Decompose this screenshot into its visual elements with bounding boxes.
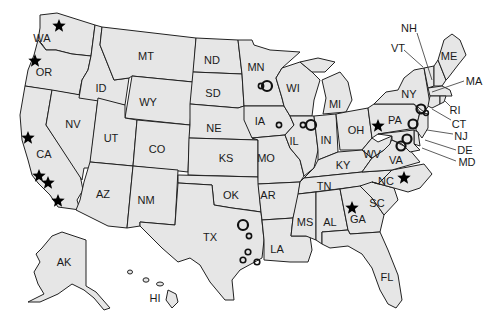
state-label-nc: NC (378, 175, 394, 187)
state-label-ma: MA (466, 75, 483, 87)
state-label-ut: UT (104, 132, 119, 144)
state-label-mo: MO (257, 152, 275, 164)
callout-line-vt (404, 50, 423, 67)
callout-line-de (425, 140, 456, 150)
state-label-nv: NV (65, 118, 81, 130)
state-shape-ak (28, 232, 110, 310)
state-label-ia: IA (255, 115, 266, 127)
state-label-wy: WY (139, 96, 157, 108)
state-label-id: ID (96, 82, 107, 94)
state-label-az: AZ (96, 188, 110, 200)
state-label-fl: FL (381, 271, 394, 283)
state-label-la: LA (270, 243, 284, 255)
state-label-il: IL (289, 135, 298, 147)
us-map: WAORCANVIDMTWYUTCOAZNMNDSDNEKSOKTXMNIAMO… (0, 0, 497, 324)
state-label-nj: NJ (454, 130, 467, 142)
state-label-ms: MS (297, 216, 314, 228)
callout-line-ct (432, 109, 451, 120)
state-label-tn: TN (317, 180, 332, 192)
state-label-mt: MT (138, 50, 154, 62)
state-label-oh: OH (348, 124, 365, 136)
state-label-wi: WI (286, 82, 299, 94)
state-label-ak: AK (57, 256, 72, 268)
state-label-md: MD (458, 156, 475, 168)
state-label-nm: NM (137, 194, 154, 206)
state-shape-ri (440, 96, 446, 104)
state-label-de: DE (457, 144, 472, 156)
state-label-co: CO (149, 143, 166, 155)
state-label-wa: WA (33, 32, 51, 44)
state-label-pa: PA (388, 114, 403, 126)
state-label-al: AL (323, 216, 336, 228)
callout-line-md (422, 148, 456, 161)
state-label-or: OR (36, 66, 53, 78)
state-label-hi: HI (150, 292, 161, 304)
state-label-ri: RI (450, 104, 461, 116)
state-label-sc: SC (369, 197, 384, 209)
state-label-nh: NH (401, 22, 417, 34)
state-label-me: ME (441, 50, 458, 62)
state-label-nd: ND (204, 54, 220, 66)
state-label-sd: SD (205, 87, 220, 99)
state-label-mi: MI (329, 98, 341, 110)
state-label-ny: NY (401, 88, 417, 100)
state-label-vt: VT (391, 42, 405, 54)
state-label-ne: NE (206, 122, 221, 134)
state-label-ct: CT (452, 118, 467, 130)
state-label-ok: OK (223, 189, 240, 201)
state-label-ks: KS (219, 152, 234, 164)
state-label-ca: CA (36, 148, 52, 160)
state-shape-ma (428, 86, 452, 96)
state-shape-fl (322, 230, 402, 308)
state-shape-wy (125, 76, 193, 125)
state-shape-ct (428, 96, 440, 108)
state-label-ga: GA (350, 213, 367, 225)
state-label-ky: KY (336, 159, 351, 171)
state-label-wv: WV (363, 148, 381, 160)
state-label-tx: TX (203, 231, 218, 243)
state-label-in: IN (321, 134, 332, 146)
callout-line-nj (427, 130, 453, 134)
state-label-ar: AR (260, 189, 275, 201)
state-label-va: VA (389, 154, 404, 166)
state-label-mn: MN (247, 61, 264, 73)
